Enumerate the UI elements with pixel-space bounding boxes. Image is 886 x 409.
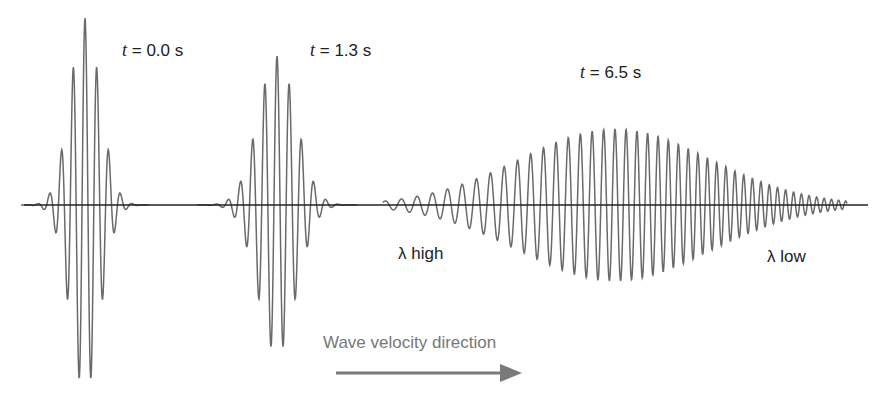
time-value: = 6.5 s	[590, 63, 642, 82]
time-value: = 1.3 s	[320, 41, 372, 60]
wave-packets	[21, 18, 847, 377]
time-variable: t	[122, 40, 127, 60]
time-variable: t	[580, 62, 585, 82]
velocity-arrow-icon	[336, 364, 522, 382]
lambda-high-label: λ high	[398, 244, 443, 264]
time-value: = 0.0 s	[132, 41, 184, 60]
wave-packet-2	[197, 56, 357, 347]
wave-velocity-label: Wave velocity direction	[323, 333, 496, 353]
time-label-packet-1: t = 0.0 s	[122, 40, 183, 61]
lambda-low-label: λ low	[767, 247, 806, 267]
time-variable: t	[310, 40, 315, 60]
wave-packet-1	[21, 18, 149, 377]
time-label-packet-3: t = 6.5 s	[580, 62, 641, 83]
time-label-packet-2: t = 1.3 s	[310, 40, 371, 61]
